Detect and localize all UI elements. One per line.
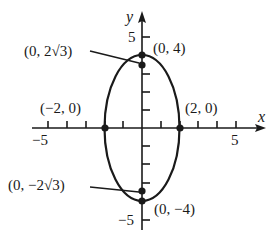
x-axis [32,121,266,132]
label-upper-focus: (0, 2√3) [24,43,72,60]
point-top-vertex [138,51,145,58]
y-axis-label: y [124,8,134,26]
label-right-covertex: (2, 0) [185,100,218,117]
label-left-covertex: (−2, 0) [40,100,81,117]
leader-lower-focus [90,187,139,192]
y-axis [138,11,150,230]
point-bottom-vertex [138,197,145,204]
label-bottom-vertex: (0, −4) [154,201,195,218]
point-right-covertex [176,124,183,131]
point-lower-focus [138,187,145,194]
label-lower-focus: (0, −2√3) [8,177,65,194]
y-tick-label-5: 5 [128,29,136,45]
point-left-covertex [101,124,108,131]
y-tick-label-neg5: −5 [118,212,134,228]
x-axis-label: x [257,108,265,125]
label-top-vertex: (0, 4) [153,40,186,57]
x-tick-label-neg5: −5 [32,132,48,148]
ellipse-graph: y x 5 −5 −5 5 (0, 2√3) (0, 4) (−2, 0) (2… [0,0,267,230]
point-upper-focus [138,61,145,68]
x-tick-label-5: 5 [231,132,239,148]
